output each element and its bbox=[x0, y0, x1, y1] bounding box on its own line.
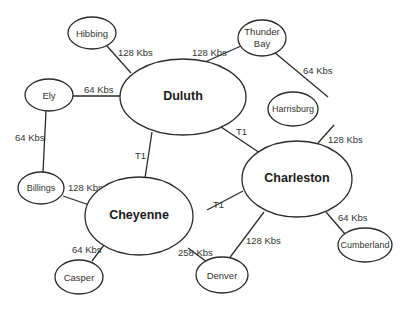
node-label-line2: Bay bbox=[254, 38, 271, 49]
node-label-line1: Thunder bbox=[244, 26, 279, 37]
link-label: T1 bbox=[236, 126, 247, 137]
node-label: Cheyenne bbox=[109, 208, 169, 222]
node-ely: Ely bbox=[25, 79, 73, 111]
link-label: 64 Kbs bbox=[15, 132, 45, 143]
node-label: Charleston bbox=[264, 171, 329, 185]
node-casper: Casper bbox=[55, 260, 103, 294]
node-label: Hibbing bbox=[76, 28, 108, 39]
link-label: 128 Kbs bbox=[192, 47, 227, 58]
node-thunder-bay: Thunder Bay bbox=[238, 20, 286, 56]
node-denver: Denver bbox=[196, 257, 248, 293]
link-label: 128 Kbs bbox=[246, 235, 281, 246]
node-duluth: Duluth bbox=[120, 59, 246, 135]
link-label: 64 Kbs bbox=[338, 212, 368, 223]
node-label: Cumberland bbox=[340, 240, 389, 250]
node-harrisburg: Harrisburg bbox=[268, 92, 318, 126]
node-label: Duluth bbox=[163, 89, 203, 103]
node-label: Harrisburg bbox=[272, 104, 314, 114]
link-label: 64 Kbs bbox=[303, 65, 333, 76]
node-label: Denver bbox=[207, 270, 238, 281]
node-charleston: Charleston bbox=[242, 141, 352, 217]
node-label: Billings bbox=[27, 183, 56, 193]
node-label: Casper bbox=[64, 272, 95, 283]
link-label: 128 Kbs bbox=[328, 134, 363, 145]
network-diagram: 128 Kbs 128 Kbs 64 Kbs 64 Kbs 64 Kbs T1 … bbox=[0, 0, 404, 310]
link-label: 64 Kbs bbox=[84, 84, 114, 95]
node-label: Ely bbox=[42, 90, 55, 101]
node-cheyenne: Cheyenne bbox=[85, 177, 193, 255]
link-label: 64 Kbs bbox=[72, 244, 102, 255]
node-cumberland: Cumberland bbox=[338, 228, 392, 262]
link-label: T1 bbox=[213, 199, 224, 210]
link-label: 128 Kbs bbox=[118, 47, 153, 58]
link-label: T1 bbox=[135, 150, 146, 161]
link-label: 258 Kbs bbox=[178, 247, 213, 258]
node-billings: Billings bbox=[18, 172, 64, 204]
node-hibbing: Hibbing bbox=[68, 17, 116, 49]
